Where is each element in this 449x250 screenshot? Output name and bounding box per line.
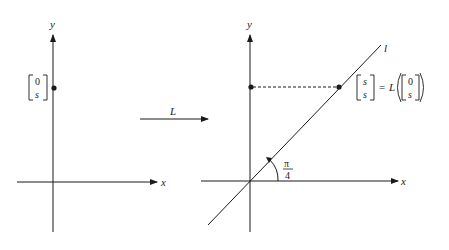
- angle-denominator: 4: [285, 170, 290, 181]
- map-name: L: [388, 81, 395, 93]
- transform-arrow: L: [140, 105, 208, 119]
- angle-numerator: π: [284, 158, 289, 169]
- image-equation: s s = L 0 s: [357, 73, 424, 102]
- right-plot: y x l π 4 s s = L 0 s: [201, 18, 424, 232]
- left-point-vector: 0 s: [29, 75, 47, 100]
- preimage-vector-bottom: s: [408, 89, 412, 100]
- line-l: [208, 45, 381, 225]
- linear-transformation-diagram: y x 0 s L y x l π 4: [0, 0, 449, 250]
- left-vector-top: 0: [35, 76, 40, 87]
- image-vector-top: s: [363, 76, 367, 87]
- left-y-axis-label: y: [49, 18, 55, 30]
- right-x-axis-label: x: [400, 175, 406, 187]
- left-plot: y x 0 s: [17, 18, 166, 232]
- preimage-vector-top: 0: [408, 76, 413, 87]
- right-yaxis-point: [248, 84, 253, 89]
- image-vector-bottom: s: [363, 89, 367, 100]
- left-x-axis-label: x: [160, 176, 166, 188]
- line-l-label: l: [384, 42, 387, 54]
- left-vector-bottom: s: [35, 89, 39, 100]
- right-y-axis-label: y: [246, 18, 252, 30]
- image-point: [336, 84, 341, 89]
- equals-sign: =: [379, 81, 385, 93]
- angle-arc: [270, 160, 278, 181]
- angle-label: π 4: [283, 158, 293, 181]
- left-point: [51, 85, 56, 90]
- transform-label: L: [169, 105, 176, 117]
